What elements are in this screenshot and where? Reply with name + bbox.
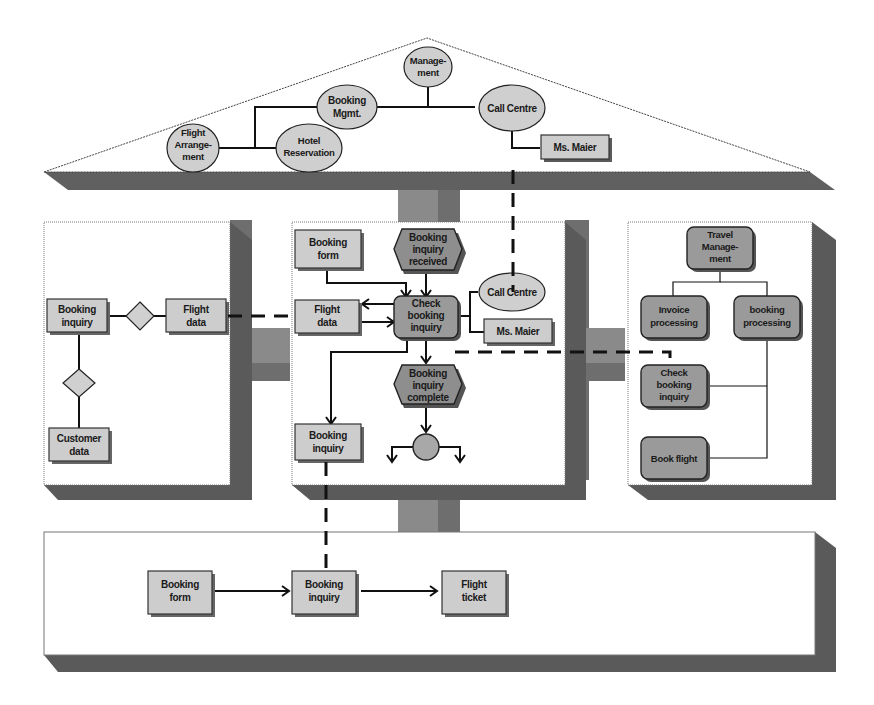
org-node-ms-maier[interactable]: Ms. Maier: [541, 135, 612, 162]
svg-text:Manage-: Manage-: [410, 55, 447, 66]
svg-text:ment: ment: [182, 151, 205, 162]
svg-text:processing: processing: [650, 317, 698, 328]
control-org-ms-maier[interactable]: Ms. Maier: [484, 319, 555, 346]
control-event-booking-inquiry-complete[interactable]: Booking inquiry complete: [394, 365, 466, 408]
control-node-booking-inquiry[interactable]: Booking inquiry: [295, 424, 364, 463]
control-node-booking-form[interactable]: Booking form: [295, 230, 364, 271]
svg-text:Flight: Flight: [314, 304, 340, 315]
svg-text:data: data: [317, 317, 337, 328]
data-view-panel: Booking inquiry Flight data Customer dat…: [44, 222, 252, 500]
svg-text:Booking: Booking: [161, 579, 199, 590]
output-node-flight-ticket[interactable]: Flight ticket: [442, 571, 509, 617]
function-node-travel-management[interactable]: Travel Manage- ment: [687, 227, 756, 272]
aris-house-diagram: Manage- ment Booking Mgmt. Call Centre F…: [0, 0, 874, 705]
org-node-call-centre[interactable]: Call Centre: [479, 85, 545, 131]
svg-text:data: data: [186, 317, 206, 328]
svg-text:Check: Check: [412, 298, 441, 309]
svg-text:Call Centre: Call Centre: [487, 103, 537, 114]
output-node-booking-form[interactable]: Booking form: [148, 571, 215, 617]
svg-text:complete: complete: [407, 392, 449, 403]
svg-text:Mgmt.: Mgmt.: [333, 108, 361, 119]
data-node-flight-data[interactable]: Flight data: [166, 299, 229, 335]
svg-text:Ms. Maier: Ms. Maier: [554, 142, 597, 153]
control-event-booking-inquiry-received[interactable]: Booking inquiry received: [394, 229, 466, 274]
svg-text:Arrange-: Arrange-: [174, 139, 211, 150]
control-connector-operator[interactable]: [413, 434, 439, 460]
function-node-booking-processing[interactable]: booking processing: [734, 296, 803, 341]
org-node-management[interactable]: Manage- ment: [404, 47, 452, 87]
svg-text:booking: booking: [657, 379, 692, 390]
org-node-flight-arrangement[interactable]: Flight Arrange- ment: [167, 124, 219, 172]
data-node-customer-data[interactable]: Customer data: [49, 428, 112, 464]
svg-text:Invoice: Invoice: [659, 304, 690, 315]
data-node-booking-inquiry[interactable]: Booking inquiry: [47, 299, 110, 335]
svg-text:inquiry: inquiry: [659, 391, 690, 402]
svg-text:inquiry: inquiry: [412, 380, 444, 391]
svg-text:Hotel: Hotel: [298, 135, 320, 146]
svg-text:Reservation: Reservation: [283, 147, 335, 158]
svg-text:form: form: [317, 250, 338, 261]
svg-text:ment: ment: [709, 253, 732, 264]
svg-text:Flight: Flight: [461, 579, 487, 590]
svg-text:inquiry: inquiry: [61, 317, 93, 328]
svg-text:ment: ment: [417, 67, 440, 78]
svg-text:Booking: Booking: [409, 368, 447, 379]
function-view-panel: Travel Manage- ment Invoice processing b…: [628, 222, 836, 500]
svg-text:booking: booking: [408, 310, 445, 321]
svg-text:Booking: Booking: [328, 95, 366, 106]
output-node-booking-inquiry[interactable]: Booking inquiry: [292, 571, 359, 617]
svg-text:Flight: Flight: [181, 127, 206, 138]
svg-text:Travel: Travel: [707, 229, 733, 240]
svg-text:Flight: Flight: [183, 304, 209, 315]
function-node-book-flight[interactable]: Book flight: [641, 437, 710, 482]
svg-text:Booking: Booking: [409, 232, 447, 243]
svg-text:inquiry: inquiry: [312, 443, 344, 454]
function-node-check-booking-inquiry[interactable]: Check booking inquiry: [641, 365, 710, 410]
control-function-check-booking-inquiry[interactable]: Check booking inquiry: [394, 296, 461, 341]
svg-text:inquiry: inquiry: [410, 322, 442, 333]
svg-text:booking: booking: [750, 304, 785, 315]
function-node-invoice-processing[interactable]: Invoice processing: [641, 296, 710, 341]
organization-view-roof: Manage- ment Booking Mgmt. Call Centre F…: [44, 38, 835, 190]
svg-text:Manage-: Manage-: [702, 241, 739, 252]
svg-text:Booking: Booking: [305, 579, 343, 590]
svg-text:Ms. Maier: Ms. Maier: [497, 326, 540, 337]
svg-text:inquiry: inquiry: [412, 244, 444, 255]
output-view-panel: Booking form Booking inquiry Flight tick…: [44, 532, 836, 672]
svg-text:Booking: Booking: [309, 430, 347, 441]
control-view-panel: Booking form Booking inquiry received Fl…: [292, 222, 586, 500]
svg-text:ticket: ticket: [462, 592, 487, 603]
svg-text:Check: Check: [660, 367, 688, 378]
svg-text:inquiry: inquiry: [308, 592, 340, 603]
svg-text:Booking: Booking: [309, 237, 347, 248]
org-node-hotel-reservation[interactable]: Hotel Reservation: [276, 124, 342, 172]
svg-text:processing: processing: [743, 317, 791, 328]
org-node-booking-mgmt[interactable]: Booking Mgmt.: [317, 85, 377, 129]
svg-text:Book flight: Book flight: [651, 453, 698, 464]
svg-text:data: data: [69, 446, 89, 457]
svg-text:Booking: Booking: [58, 304, 96, 315]
svg-text:form: form: [169, 592, 190, 603]
roof-band: [44, 172, 835, 190]
svg-text:received: received: [409, 256, 447, 267]
control-node-flight-data[interactable]: Flight data: [295, 300, 362, 336]
svg-text:Customer: Customer: [57, 433, 102, 444]
